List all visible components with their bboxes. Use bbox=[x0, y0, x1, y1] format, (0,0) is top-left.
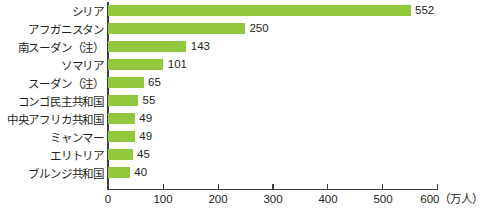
bar bbox=[108, 41, 186, 52]
bar-value-label: 55 bbox=[143, 95, 156, 106]
bar bbox=[108, 23, 245, 34]
x-axis-line bbox=[107, 189, 438, 190]
bar-chart: シリア アフガニスタン 南スーダン（注） ソマリア スーダン（注） コンゴ民主共… bbox=[0, 0, 499, 217]
category-label: ソマリア bbox=[61, 61, 104, 72]
bar bbox=[108, 5, 411, 16]
category-label: シリア bbox=[72, 7, 104, 18]
x-tick-label: 200 bbox=[208, 193, 227, 205]
category-label: 中央アフリカ共和国 bbox=[7, 115, 104, 126]
bar bbox=[108, 131, 135, 142]
category-label: エリトリア bbox=[50, 151, 104, 162]
category-label: コンゴ民主共和国 bbox=[18, 97, 104, 108]
x-tick-label: 500 bbox=[373, 193, 392, 205]
x-axis-tick bbox=[108, 184, 109, 189]
x-tick-label: 0 bbox=[105, 193, 111, 205]
x-axis-tick bbox=[437, 184, 438, 189]
x-axis-tick bbox=[218, 184, 219, 189]
bar bbox=[108, 113, 135, 124]
bar bbox=[108, 59, 163, 70]
bar-value-label: 49 bbox=[139, 131, 152, 142]
x-tick-label: 300 bbox=[263, 193, 282, 205]
x-axis-tick bbox=[163, 184, 164, 189]
x-tick-label: 100 bbox=[153, 193, 172, 205]
bar-value-label: 65 bbox=[148, 77, 161, 88]
x-axis-tick bbox=[272, 184, 273, 189]
bar-value-label: 49 bbox=[139, 113, 152, 124]
bar bbox=[108, 167, 130, 178]
bar-value-label: 250 bbox=[249, 23, 268, 34]
x-tick-label-unit: 600（万人） bbox=[420, 193, 483, 205]
bar-value-label: 45 bbox=[137, 149, 150, 160]
x-tick-label: 400 bbox=[318, 193, 337, 205]
bar-value-label: 143 bbox=[191, 41, 210, 52]
category-label: スーダン（注） bbox=[28, 79, 104, 90]
category-label: 南スーダン（注） bbox=[18, 43, 104, 54]
bar bbox=[108, 95, 138, 106]
x-axis-tick bbox=[382, 184, 383, 189]
bar-value-label: 101 bbox=[168, 59, 187, 70]
bar-value-label: 552 bbox=[415, 5, 434, 16]
x-axis-tick bbox=[327, 184, 328, 189]
category-label: アフガニスタン bbox=[28, 25, 104, 36]
bar bbox=[108, 149, 133, 160]
bar-value-label: 40 bbox=[134, 167, 147, 178]
bar bbox=[108, 77, 144, 88]
category-label: ミャンマー bbox=[50, 133, 104, 144]
category-label: ブルンジ共和国 bbox=[28, 169, 104, 180]
